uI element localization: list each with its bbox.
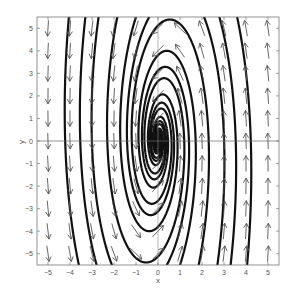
x-tick-label: 3 xyxy=(222,269,226,276)
direction-arrow xyxy=(45,88,50,104)
x-tick-label: −5 xyxy=(44,269,52,276)
direction-arrow xyxy=(67,43,72,59)
direction-arrow xyxy=(46,223,51,239)
y-tick-label: 1 xyxy=(29,115,33,122)
x-axis-label: x xyxy=(156,276,160,285)
direction-arrow xyxy=(89,88,94,104)
x-tick-label: 0 xyxy=(156,269,160,276)
direction-arrow xyxy=(198,21,204,36)
direction-arrow xyxy=(244,223,249,239)
direction-arrow xyxy=(243,201,248,217)
direction-arrow xyxy=(199,156,204,172)
direction-arrow xyxy=(45,20,50,36)
direction-arrow xyxy=(111,246,117,261)
x-tick-label: −4 xyxy=(66,269,74,276)
y-axis-label: y xyxy=(17,140,26,144)
direction-arrow xyxy=(45,110,50,126)
x-tick-label: 1 xyxy=(178,269,182,276)
y-tick-label: 4 xyxy=(29,47,33,54)
x-tick-label: 4 xyxy=(244,269,248,276)
direction-arrow xyxy=(111,65,116,81)
direction-arrow xyxy=(89,20,94,36)
direction-arrow xyxy=(265,20,270,36)
direction-arrow xyxy=(46,178,51,194)
direction-arrow xyxy=(67,110,72,126)
direction-arrow xyxy=(266,246,271,262)
x-tick-label: −3 xyxy=(88,269,96,276)
direction-arrow xyxy=(221,65,226,81)
direction-arrow xyxy=(67,88,72,104)
y-tick-label: −5 xyxy=(25,250,33,257)
direction-arrow xyxy=(243,110,248,126)
direction-arrow xyxy=(68,156,73,172)
y-tick-label: 3 xyxy=(29,70,33,77)
direction-arrow xyxy=(89,110,94,126)
direction-arrow xyxy=(243,20,248,36)
y-tick-label: 2 xyxy=(29,92,33,99)
direction-arrow xyxy=(46,246,51,262)
y-tick-label: −2 xyxy=(25,183,33,190)
phase-portrait-chart: −5−4−3−2−1012345−5−4−3−2−1012345 x y xyxy=(0,0,296,295)
direction-arrow xyxy=(111,88,116,104)
y-tick-label: −1 xyxy=(25,160,33,167)
direction-arrow xyxy=(45,65,50,81)
y-tick-label: −3 xyxy=(25,205,33,212)
direction-arrow xyxy=(68,246,73,262)
direction-arrow xyxy=(221,178,226,194)
direction-arrow xyxy=(265,65,270,81)
direction-arrow xyxy=(243,178,248,194)
direction-arrow xyxy=(243,156,248,172)
x-tick-label: −1 xyxy=(132,269,140,276)
direction-arrow xyxy=(111,110,116,126)
direction-arrow xyxy=(67,65,72,81)
x-tick-label: −2 xyxy=(110,269,118,276)
direction-arrow xyxy=(265,178,270,194)
direction-arrow xyxy=(200,201,205,217)
direction-arrow xyxy=(265,201,270,217)
direction-arrow xyxy=(265,156,270,172)
y-tick-label: 5 xyxy=(29,25,33,32)
direction-arrow xyxy=(112,223,118,238)
direction-arrow xyxy=(265,88,270,104)
direction-arrow xyxy=(46,201,51,217)
direction-arrow xyxy=(265,110,270,126)
direction-arrow xyxy=(200,178,205,194)
y-tick-label: −4 xyxy=(25,228,33,235)
direction-arrow xyxy=(90,201,95,217)
direction-arrow xyxy=(265,43,270,59)
direction-arrow xyxy=(222,246,227,262)
x-tick-label: 2 xyxy=(200,269,204,276)
direction-arrow xyxy=(199,43,205,58)
direction-arrow xyxy=(46,156,51,172)
y-tick-label: 0 xyxy=(29,138,33,145)
direction-arrow xyxy=(45,43,50,59)
direction-arrow xyxy=(266,223,271,239)
direction-arrow xyxy=(221,156,226,172)
direction-arrow xyxy=(112,156,117,172)
direction-arrow xyxy=(199,110,204,126)
x-tick-label: 5 xyxy=(266,269,270,276)
